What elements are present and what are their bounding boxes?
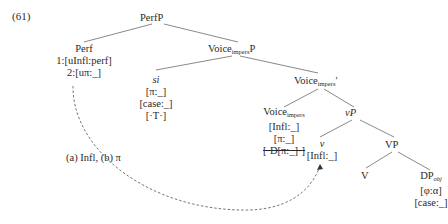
tree-branches xyxy=(0,0,448,224)
node-si: si [π:_] [case:_] [·T·] xyxy=(134,74,178,122)
node-voicep: VoiceimpersP xyxy=(208,43,255,58)
node-voice-bar: Voiceimpers′ xyxy=(294,75,338,90)
node-v-little: v [Infl:_] xyxy=(304,138,340,162)
node-dp-obj: DPobj [φ:α] [case:_] xyxy=(414,170,448,209)
example-number: (61) xyxy=(12,10,30,22)
node-vp: VP xyxy=(385,139,398,151)
node-perfp: PerfP xyxy=(140,12,163,24)
arrow-label: (a) Infl, (b) π xyxy=(66,152,121,164)
node-v: V xyxy=(361,170,369,182)
node-vp-little: vP xyxy=(345,107,356,119)
node-perf: Perf 1:[uInfl:perf] 2:[uπ:_] xyxy=(46,43,122,79)
arrow-head-icon xyxy=(317,164,323,170)
